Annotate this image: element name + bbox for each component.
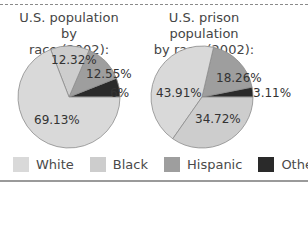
legend-label: Hispanic bbox=[187, 157, 242, 172]
pie-chart-population: 69.13%12.32%12.55%6% bbox=[18, 46, 132, 148]
legend: White Black Hispanic Other bbox=[13, 157, 308, 172]
legend-label: White bbox=[36, 157, 74, 172]
legend-label: Other bbox=[281, 157, 308, 172]
other-swatch bbox=[258, 157, 274, 172]
bottom-divider bbox=[0, 180, 308, 182]
slice-label-hispanic: 18.26% bbox=[216, 71, 262, 85]
slice-label-black: 12.32% bbox=[51, 53, 97, 67]
slice-label-white: 69.13% bbox=[34, 113, 80, 127]
slice-label-white: 43.91% bbox=[156, 86, 202, 100]
hispanic-swatch bbox=[164, 157, 180, 172]
legend-item-white: White bbox=[13, 157, 74, 172]
legend-item-hispanic: Hispanic bbox=[164, 157, 242, 172]
slice-label-other: 3.11% bbox=[253, 86, 291, 100]
pie-chart-prison: 43.91%34.72%18.26%3.11% bbox=[151, 46, 291, 148]
slice-label-hispanic: 12.55% bbox=[86, 67, 132, 81]
legend-item-black: Black bbox=[90, 157, 148, 172]
slice-label-black: 34.72% bbox=[195, 112, 241, 126]
white-swatch bbox=[13, 157, 29, 172]
legend-label: Black bbox=[113, 157, 148, 172]
legend-item-other: Other bbox=[258, 157, 308, 172]
slice-label-other: 6% bbox=[110, 86, 129, 100]
black-swatch bbox=[90, 157, 106, 172]
